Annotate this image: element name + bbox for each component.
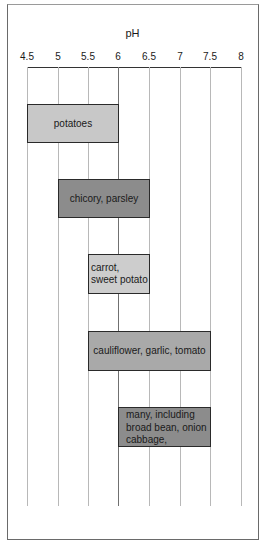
bar-label-line: cabbage, (126, 434, 167, 445)
bar-label-line: many, including (126, 409, 195, 420)
tick-label: 8 (226, 51, 256, 62)
bar-label-line: broad bean, onion (126, 422, 207, 433)
bar-label: cauliflower, garlic, tomato (93, 345, 205, 357)
bar-potatoes: potatoes (27, 104, 119, 143)
bar-label: potatoes (54, 118, 92, 130)
axis-title: pH (0, 27, 265, 39)
tick-label: 5 (43, 51, 73, 62)
bar-label: chicory, parsley (70, 193, 139, 205)
tick-label: 6 (103, 51, 133, 62)
bar-carrot-sweet-potato: carrot, sweet potato (88, 254, 150, 294)
bar-label-line: sweet potato (91, 274, 148, 285)
tick-label: 6.5 (134, 51, 164, 62)
bar-label-line: carrot, (91, 262, 119, 273)
gridline (241, 67, 242, 506)
tick-label: 4.5 (12, 51, 42, 62)
bar-many-including: many, including broad bean, onion cabbag… (118, 407, 211, 447)
bar-cauliflower-garlic-tomato: cauliflower, garlic, tomato (88, 331, 211, 371)
bar-label: many, including broad bean, onion cabbag… (126, 409, 207, 447)
tick-label: 7 (165, 51, 195, 62)
bar-chicory-parsley: chicory, parsley (58, 179, 150, 218)
tick-label: 7.5 (195, 51, 225, 62)
bar-label: carrot, sweet potato (91, 262, 148, 286)
tick-label: 5.5 (73, 51, 103, 62)
